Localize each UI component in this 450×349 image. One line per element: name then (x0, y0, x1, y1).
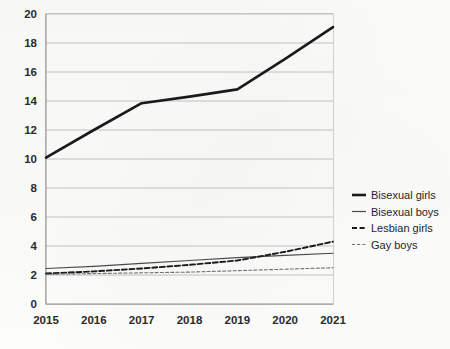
y-tick-label: 20 (24, 8, 37, 20)
y-tick-label: 14 (24, 95, 37, 107)
x-axis-ticks: 2015201620172018201920202021 (33, 314, 346, 326)
y-tick-label: 18 (24, 37, 37, 49)
y-tick-label: 2 (31, 269, 37, 281)
x-tick-label: 2015 (33, 314, 59, 326)
y-axis-ticks: 02468101214161820 (24, 8, 37, 310)
legend-label-2[interactable]: Lesbian girls (371, 222, 433, 234)
x-tick-label: 2021 (320, 314, 346, 326)
legend-label-3[interactable]: Gay boys (371, 239, 418, 251)
data-series (46, 27, 333, 274)
y-tick-label: 6 (31, 211, 37, 223)
x-tick-label: 2019 (225, 314, 251, 326)
chart-page: 02468101214161820 2015201620172018201920… (0, 0, 450, 349)
y-tick-label: 0 (31, 298, 37, 310)
chart-legend: Bisexual girlsBisexual boysLesbian girls… (352, 189, 439, 251)
x-tick-label: 2016 (81, 314, 107, 326)
y-tick-label: 10 (24, 153, 37, 165)
y-tick-label: 8 (31, 182, 38, 194)
legend-label-1[interactable]: Bisexual boys (371, 206, 439, 218)
series-line-1 (46, 253, 333, 268)
y-tick-label: 12 (24, 124, 37, 136)
legend-label-0[interactable]: Bisexual girls (371, 189, 436, 201)
x-tick-label: 2020 (272, 314, 298, 326)
y-tick-label: 4 (31, 240, 38, 252)
x-tick-label: 2017 (129, 314, 155, 326)
y-tick-label: 16 (24, 66, 37, 78)
line-chart: 02468101214161820 2015201620172018201920… (0, 0, 450, 349)
x-tick-label: 2018 (177, 314, 203, 326)
series-line-0 (46, 27, 333, 158)
